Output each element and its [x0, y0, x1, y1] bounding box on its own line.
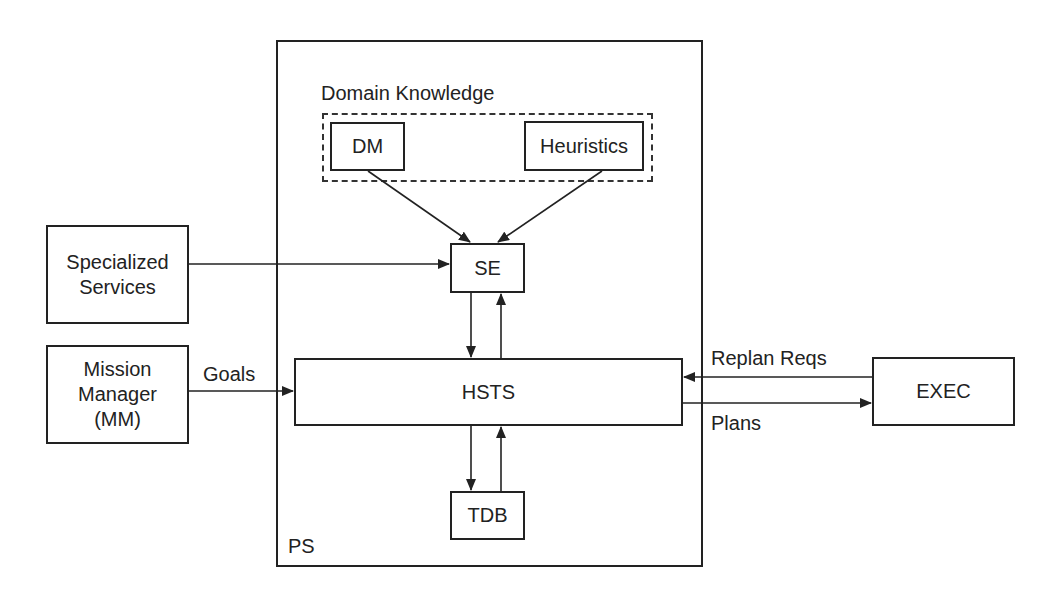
exec-node: EXEC [872, 357, 1015, 426]
specialized-services-node: Specialized Services [46, 225, 189, 324]
edge-heuristics-se [498, 171, 602, 242]
goals-label: Goals [203, 363, 255, 386]
plans-label: Plans [711, 412, 761, 435]
dm-node: DM [330, 122, 405, 171]
se-node: SE [450, 243, 525, 293]
mission-manager-node: Mission Manager (MM) [46, 345, 189, 444]
edge-dm-se [368, 171, 470, 242]
heuristics-node: Heuristics [524, 121, 644, 171]
hsts-node: HSTS [294, 358, 683, 426]
architecture-diagram: PS Domain Knowledge DM Heuristics SE [0, 0, 1063, 597]
tdb-node: TDB [450, 491, 525, 540]
replan-reqs-label: Replan Reqs [711, 347, 827, 370]
